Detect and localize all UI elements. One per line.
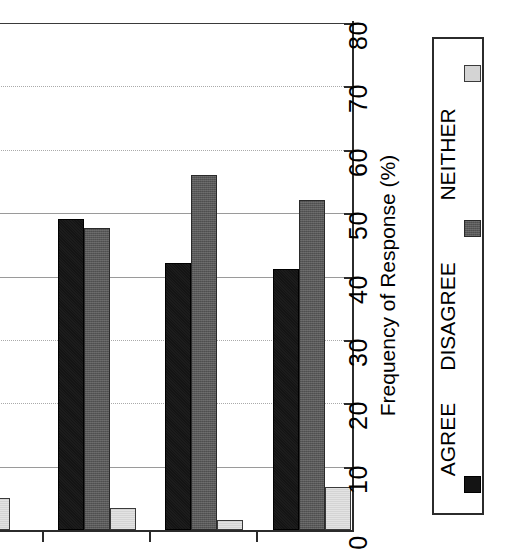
legend-swatch-agree-icon — [464, 476, 481, 493]
bar-group-3 — [137, 23, 245, 530]
legend-item-agree[interactable]: AGREE — [434, 364, 486, 514]
axis-tick-label-10: 10 — [346, 465, 371, 494]
bar-group-1 — [0, 23, 30, 530]
bar-group-4 — [245, 23, 353, 530]
bar-agree-2 — [58, 219, 84, 530]
chart-figure: 0 10 20 30 40 50 60 70 80 Frequency of R… — [0, 0, 512, 551]
bar-agree-4 — [273, 269, 299, 530]
bar-disagree-2 — [84, 228, 110, 530]
legend-swatch-disagree-icon — [464, 220, 481, 237]
legend-box: NEITHER DISAGREE AGREE — [432, 37, 484, 515]
bar-groups — [0, 23, 352, 530]
bar-disagree-3 — [191, 175, 217, 530]
bar-neither-2 — [110, 508, 136, 530]
category-tick-2 — [149, 531, 151, 542]
legend-item-disagree[interactable]: DISAGREE — [434, 204, 486, 354]
axis-tick-label-0: 0 — [346, 535, 371, 549]
category-tick-1 — [42, 531, 44, 542]
legend-item-neither[interactable]: NEITHER — [434, 49, 486, 199]
bar-disagree-4 — [299, 200, 325, 530]
value-axis-title: Frequency of Response (%) — [377, 155, 398, 416]
legend-swatch-neither-icon — [464, 65, 481, 82]
bar-neither-1 — [0, 498, 10, 530]
axis-tick-0 — [344, 530, 354, 532]
bar-group-2 — [30, 23, 138, 530]
legend-label-disagree: DISAGREE — [437, 262, 458, 371]
category-tick-3 — [256, 531, 258, 542]
axis-tick-label-40: 40 — [346, 275, 371, 304]
axis-tick-label-30: 30 — [346, 338, 371, 367]
bar-agree-3 — [165, 263, 191, 530]
legend-label-agree: AGREE — [437, 403, 458, 477]
category-axis-baseline — [0, 530, 354, 532]
axis-tick-label-50: 50 — [346, 211, 371, 240]
bar-neither-3 — [217, 520, 243, 530]
axis-tick-label-70: 70 — [346, 84, 371, 113]
axis-tick-label-20: 20 — [346, 401, 371, 430]
axis-tick-label-60: 60 — [346, 148, 371, 177]
axis-tick-label-80: 80 — [346, 21, 371, 50]
legend-label-neither: NEITHER — [437, 108, 458, 200]
